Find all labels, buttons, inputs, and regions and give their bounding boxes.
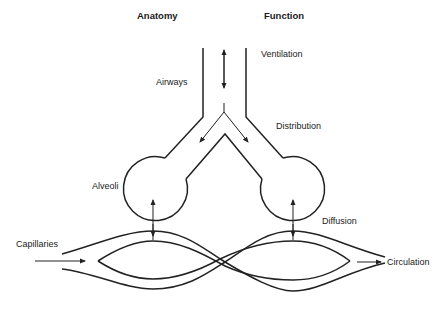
label-airways: Airways <box>156 78 188 87</box>
lung-diagram <box>0 0 444 309</box>
label-distribution: Distribution <box>276 122 321 131</box>
label-ventilation: Ventilation <box>261 50 303 59</box>
alveoli-shapes <box>123 157 324 221</box>
label-circulation: Circulation <box>387 258 430 267</box>
label-capillaries: Capillaries <box>16 240 58 249</box>
label-diffusion: Diffusion <box>322 217 357 226</box>
label-alveoli: Alveoli <box>92 182 119 191</box>
header-anatomy: Anatomy <box>137 11 178 21</box>
header-function: Function <box>264 11 304 21</box>
capillary-vessels <box>62 231 385 291</box>
flow-arrows <box>35 261 381 262</box>
